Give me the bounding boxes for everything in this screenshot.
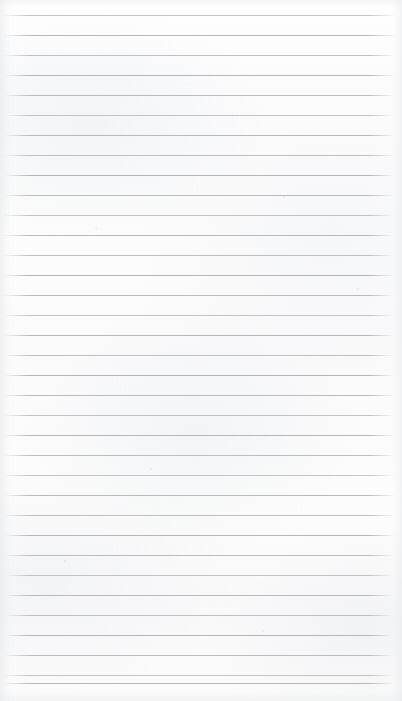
rule-line	[3, 515, 395, 516]
rule-line	[3, 635, 395, 636]
rule-line	[3, 615, 395, 616]
rule-line	[3, 455, 395, 456]
rule-line	[3, 75, 395, 76]
rule-line	[3, 255, 395, 256]
paper-speck	[357, 288, 359, 290]
rule-line	[3, 175, 395, 176]
rule-line	[3, 35, 395, 36]
rule-line	[3, 595, 395, 596]
rule-line	[3, 215, 395, 216]
rule-line	[3, 355, 395, 356]
rule-line	[3, 115, 395, 116]
rule-line	[3, 683, 395, 684]
paper-speck	[150, 468, 152, 470]
rule-line	[3, 675, 395, 676]
rule-line	[3, 155, 395, 156]
rule-line	[3, 375, 395, 376]
ruled-lines-group	[0, 0, 402, 701]
rule-line	[3, 135, 395, 136]
rule-line	[3, 95, 395, 96]
rule-line	[3, 655, 395, 656]
rule-line	[3, 195, 395, 196]
rule-line	[3, 555, 395, 556]
rule-line	[3, 475, 395, 476]
rule-line	[3, 235, 395, 236]
paper-speck	[283, 196, 285, 198]
rule-line	[3, 435, 395, 436]
rule-line	[3, 55, 395, 56]
paper-speck	[64, 560, 66, 562]
rule-line	[3, 335, 395, 336]
rule-line	[3, 15, 395, 16]
rule-line	[3, 275, 395, 276]
rule-line	[3, 495, 395, 496]
rule-line	[3, 315, 395, 316]
notebook-paper-sheet	[0, 0, 402, 701]
rule-line	[3, 395, 395, 396]
paper-speck	[262, 630, 264, 632]
rule-line	[3, 415, 395, 416]
rule-line	[3, 535, 395, 536]
rule-line	[3, 295, 395, 296]
rule-line	[3, 575, 395, 576]
